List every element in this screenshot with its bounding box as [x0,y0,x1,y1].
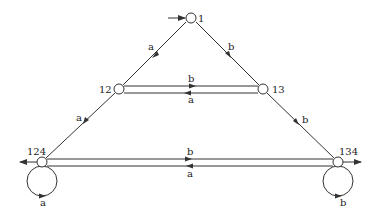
arrow-12-13 [189,84,196,89]
automaton-diagram: 1 12 13 124 134 a b b a a b b a a b [0,0,378,218]
state-label-1: 1 [198,13,204,24]
transition-label-12-124: a [76,112,82,123]
edge-13-134 [267,93,334,158]
self-loop-124 [27,166,57,196]
diagram-svg: 1 12 13 124 134 a b b a a b b a a b [0,0,378,218]
state-label-134: 134 [339,146,358,157]
transition-label-loop-124: a [40,197,46,208]
state-12 [114,84,124,94]
edge-1-12 [123,22,186,85]
state-label-124: 124 [27,146,46,157]
edge-12-124 [46,93,115,158]
state-1 [186,13,196,23]
state-13 [258,84,268,94]
transition-label-13-134: b [302,114,308,125]
transition-label-1-12: a [148,41,154,52]
transition-label-134-124: a [187,168,193,179]
arrow-124-134 [185,157,192,162]
state-label-13: 13 [272,84,285,95]
state-label-12: 12 [99,84,112,95]
state-124 [37,157,47,167]
transition-label-12-13: b [188,73,194,84]
transition-label-124-134: b [187,146,193,157]
transition-label-loop-134: b [340,197,346,208]
state-134 [333,157,343,167]
transition-label-1-13: b [228,41,234,52]
self-loop-134 [323,166,353,196]
transition-label-13-12: a [188,94,194,105]
